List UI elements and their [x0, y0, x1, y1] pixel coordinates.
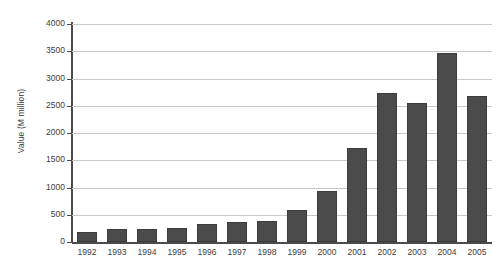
bar-slot	[342, 24, 372, 242]
bar[interactable]	[317, 191, 337, 242]
bar-slot	[432, 24, 462, 242]
x-axis-tick-label: 1997	[222, 248, 252, 257]
x-axis-tick-label: 1996	[192, 248, 222, 257]
y-axis-tick-label: 0	[60, 237, 65, 246]
y-axis-tick-label: 2000	[46, 128, 65, 137]
x-axis-tick-label: 2004	[432, 248, 462, 257]
x-axis-tick-label: 2001	[342, 248, 372, 257]
y-axis-tick-label: 1000	[46, 183, 65, 192]
bar-series	[72, 24, 492, 242]
x-axis-tick-label: 2005	[462, 248, 492, 257]
x-axis-tick-label: 1995	[162, 248, 192, 257]
bar-slot	[402, 24, 432, 242]
bar[interactable]	[137, 229, 157, 242]
x-axis-tick-label: 2000	[312, 248, 342, 257]
bar-slot	[72, 24, 102, 242]
x-axis-tick-label: 1993	[102, 248, 132, 257]
bar-slot	[462, 24, 492, 242]
y-axis-tick-label: 3500	[46, 46, 65, 55]
axis-baseline	[72, 242, 492, 244]
bar-slot	[132, 24, 162, 242]
x-axis-tick-label: 1994	[132, 248, 162, 257]
bar-slot	[222, 24, 252, 242]
x-axis-tick-label: 1992	[72, 248, 102, 257]
bar-slot	[102, 24, 132, 242]
bar[interactable]	[107, 229, 127, 242]
bar-chart: Value (M million) 0500100015002000250030…	[0, 0, 502, 277]
y-axis-tick-label: 4000	[46, 19, 65, 28]
x-axis-tick-label: 2003	[402, 248, 432, 257]
bar[interactable]	[227, 222, 247, 242]
bar-slot	[252, 24, 282, 242]
bar[interactable]	[377, 93, 397, 242]
bar[interactable]	[257, 221, 277, 242]
bar[interactable]	[77, 232, 97, 242]
y-axis-tick-label: 1500	[46, 155, 65, 164]
bar-slot	[312, 24, 342, 242]
bar[interactable]	[287, 210, 307, 242]
bar[interactable]	[347, 148, 367, 242]
x-axis-labels: 1992199319941995199619971998199920002001…	[72, 248, 492, 257]
bar[interactable]	[197, 224, 217, 242]
bar[interactable]	[467, 96, 487, 242]
y-axis-tick-label: 500	[51, 210, 65, 219]
x-axis-tick-label: 1999	[282, 248, 312, 257]
y-axis-ticks: 05001000150020002500300035004000	[0, 24, 72, 242]
bar[interactable]	[167, 228, 187, 242]
x-axis-tick-label: 1998	[252, 248, 282, 257]
bar-slot	[162, 24, 192, 242]
y-axis-tick-label: 3000	[46, 74, 65, 83]
bar[interactable]	[437, 53, 457, 242]
bar-slot	[282, 24, 312, 242]
plot-area	[72, 24, 492, 242]
bar-slot	[372, 24, 402, 242]
bar-slot	[192, 24, 222, 242]
bar[interactable]	[407, 103, 427, 242]
x-axis-tick-label: 2002	[372, 248, 402, 257]
y-axis-tick-label: 2500	[46, 101, 65, 110]
